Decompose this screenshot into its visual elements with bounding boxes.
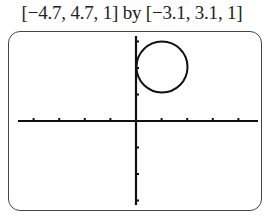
circle-curve — [137, 42, 188, 93]
graph-plot — [0, 0, 264, 224]
